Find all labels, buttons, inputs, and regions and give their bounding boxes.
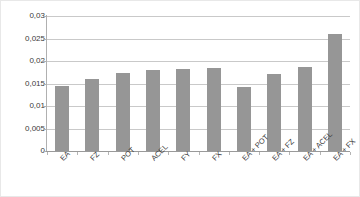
y-axis: 00,0050,010,0150,020,0250,03	[1, 1, 45, 197]
x-axis-tick-mark	[289, 152, 290, 155]
y-axis-tick-label: 0,01	[3, 102, 45, 110]
bar[interactable]	[328, 34, 342, 151]
x-axis-tick-mark	[138, 152, 139, 155]
y-axis-tick-label: 0,025	[3, 35, 45, 43]
gridline	[47, 16, 350, 17]
y-axis-tick-label: 0,02	[3, 57, 45, 65]
bar[interactable]	[237, 87, 251, 151]
x-axis-tick-mark	[259, 152, 260, 155]
bar[interactable]	[207, 68, 221, 151]
y-axis-tick-label: 0,03	[3, 12, 45, 20]
bar-chart-figure: 00,0050,010,0150,020,0250,03 EAFZPOTACEL…	[0, 0, 360, 197]
bar[interactable]	[55, 86, 69, 151]
x-axis-tick-mark	[350, 152, 351, 155]
x-axis-tick-label: FX	[211, 150, 223, 162]
gridline	[47, 151, 350, 152]
bar[interactable]	[298, 67, 312, 151]
bar[interactable]	[85, 79, 99, 151]
plot-area	[47, 16, 350, 151]
y-axis-tick-label: 0	[3, 147, 45, 155]
bar[interactable]	[267, 74, 281, 151]
x-axis-tick-mark	[47, 152, 48, 155]
gridline	[47, 39, 350, 40]
x-axis-tick-mark	[108, 152, 109, 155]
x-axis-tick-mark	[168, 152, 169, 155]
bar[interactable]	[146, 70, 160, 151]
y-axis-tick-label: 0,015	[3, 80, 45, 88]
x-axis-tick-label: FY	[180, 150, 192, 162]
bar[interactable]	[176, 69, 190, 151]
x-axis-tick-mark	[199, 152, 200, 155]
y-axis-tick-label: 0,005	[3, 125, 45, 133]
x-axis-tick-label: FZ	[89, 151, 101, 163]
gridline	[47, 61, 350, 62]
x-axis-tick-mark	[77, 152, 78, 155]
x-axis-tick-mark	[229, 152, 230, 155]
bar[interactable]	[116, 73, 130, 151]
x-axis-tick-mark	[320, 152, 321, 155]
